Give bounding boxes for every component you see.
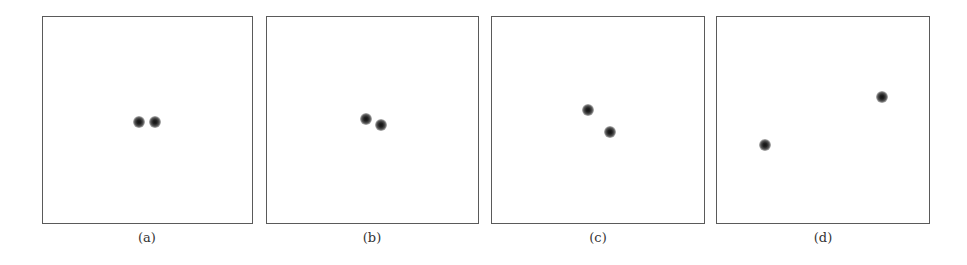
point-d-2 [876,91,888,103]
point-a-1 [133,116,145,128]
point-d-1 [759,139,771,151]
panel-d [716,16,930,224]
caption-d: (d) [814,230,832,245]
point-b-2 [375,119,387,131]
panel-c [491,16,705,224]
point-c-2 [604,126,616,138]
caption-b: (b) [363,230,381,245]
panel-b [266,16,479,224]
point-b-1 [360,113,372,125]
caption-c: (c) [589,230,606,245]
caption-a: (a) [138,230,156,245]
panel-a [42,16,253,224]
point-a-2 [149,116,161,128]
point-c-1 [582,104,594,116]
